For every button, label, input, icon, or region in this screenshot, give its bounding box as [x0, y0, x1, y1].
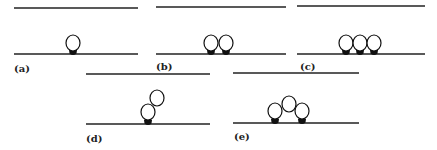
bead-circle: [219, 35, 233, 51]
panel-label: (a): [14, 63, 30, 74]
panel-a: (a): [14, 8, 138, 74]
bead-circle: [268, 103, 282, 119]
panel-label: (e): [234, 131, 250, 142]
bead-circle: [150, 90, 164, 106]
panel-c: (c): [297, 6, 425, 72]
bead-circle: [339, 35, 353, 51]
panel-e: (e): [233, 73, 359, 142]
panel-label: (b): [156, 61, 172, 72]
bead-circle: [141, 104, 155, 120]
bead-circle: [367, 35, 381, 51]
panel-b: (b): [156, 7, 286, 72]
panel-label: (d): [86, 133, 102, 144]
bead-circle: [204, 35, 218, 51]
panel-d: (d): [86, 74, 210, 144]
bead-circle: [282, 96, 296, 112]
bead-circle: [353, 35, 367, 51]
bead-circle: [295, 103, 309, 119]
bead-circle: [66, 35, 80, 51]
diagram-canvas: (a)(b)(c)(d)(e): [0, 0, 437, 150]
panel-label: (c): [300, 61, 316, 72]
